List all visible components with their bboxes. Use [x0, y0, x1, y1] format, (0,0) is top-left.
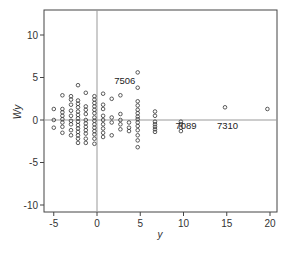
reference-lines — [44, 10, 277, 212]
y-axis-title: Wy — [12, 104, 23, 119]
x-tick-label: 5 — [137, 218, 143, 229]
y-axis: -10-50510 — [24, 30, 44, 211]
y-tick-label: 10 — [27, 30, 39, 41]
data-point — [61, 125, 65, 129]
data-point — [69, 114, 73, 118]
y-tick-label: 5 — [32, 72, 38, 83]
data-point — [136, 124, 140, 128]
plot-border — [44, 10, 277, 212]
data-point — [136, 145, 140, 149]
data-point — [153, 130, 157, 134]
data-point — [101, 92, 105, 96]
data-point — [119, 112, 123, 116]
data-point — [101, 123, 105, 127]
point-annotations: 750670897310 — [114, 75, 238, 132]
data-point — [110, 134, 114, 138]
y-tick-label: -5 — [29, 157, 38, 168]
data-point — [101, 107, 105, 111]
data-point — [69, 109, 73, 113]
x-tick-label: 10 — [178, 218, 190, 229]
y-tick-label: 0 — [32, 115, 38, 126]
data-point — [101, 131, 105, 135]
data-point — [84, 137, 88, 141]
data-point — [153, 110, 157, 114]
point-label: 7506 — [114, 75, 135, 86]
data-point — [76, 83, 80, 87]
data-point — [136, 71, 140, 75]
data-point — [101, 127, 105, 131]
data-point — [110, 116, 114, 120]
data-point — [93, 142, 97, 146]
x-axis-title: y — [157, 229, 164, 240]
x-tick-label: -5 — [49, 218, 58, 229]
data-point — [84, 112, 88, 116]
data-points — [52, 71, 269, 149]
data-point — [136, 139, 140, 143]
data-point — [119, 123, 123, 127]
data-point — [136, 134, 140, 138]
data-point — [119, 94, 123, 98]
data-point — [110, 97, 114, 101]
data-point — [153, 114, 157, 118]
data-point — [69, 103, 73, 107]
data-point — [69, 123, 73, 127]
data-point — [69, 134, 73, 138]
data-point — [136, 100, 140, 104]
data-point — [136, 86, 140, 90]
data-point — [61, 94, 65, 98]
data-point — [69, 128, 73, 132]
x-tick-label: 20 — [264, 218, 276, 229]
data-point — [93, 137, 97, 141]
data-point — [101, 135, 105, 139]
data-point — [136, 128, 140, 132]
data-point — [119, 128, 123, 132]
plot-frame — [44, 10, 277, 212]
x-tick-label: 15 — [221, 218, 233, 229]
data-point — [101, 103, 105, 107]
data-point — [266, 107, 270, 111]
data-point — [52, 107, 56, 111]
data-point — [127, 121, 131, 125]
data-point — [76, 106, 80, 110]
data-point — [101, 114, 105, 118]
x-tick-label: 0 — [94, 218, 100, 229]
x-axis: -505101520 — [49, 212, 276, 229]
data-point — [110, 121, 114, 125]
data-point — [76, 141, 80, 145]
data-point — [136, 104, 140, 108]
y-tick-label: -10 — [24, 200, 39, 211]
point-label: 7310 — [217, 120, 238, 131]
scatter-chart: 750670897310 -505101520 -10-50510 y Wy — [0, 0, 292, 254]
data-point — [84, 91, 88, 95]
data-point — [223, 106, 227, 110]
data-point — [84, 141, 88, 145]
point-label: 7089 — [176, 120, 197, 131]
data-point — [61, 131, 65, 135]
data-point — [52, 126, 56, 130]
